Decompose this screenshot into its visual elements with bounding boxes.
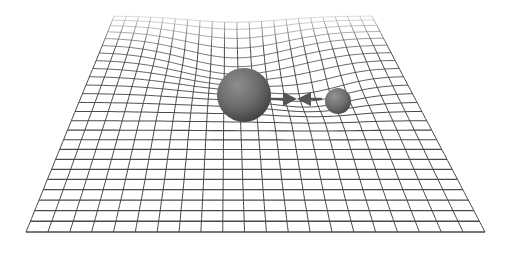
top-fade-overlay (0, 0, 511, 253)
large-mass-sphere (217, 68, 271, 122)
spacetime-canvas (0, 0, 511, 253)
small-mass-sphere (325, 88, 351, 114)
spacetime-diagram (0, 0, 511, 253)
